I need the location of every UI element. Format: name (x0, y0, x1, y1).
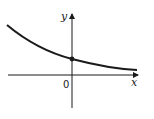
function-graph (0, 0, 154, 119)
y-intercept-point (70, 57, 75, 62)
